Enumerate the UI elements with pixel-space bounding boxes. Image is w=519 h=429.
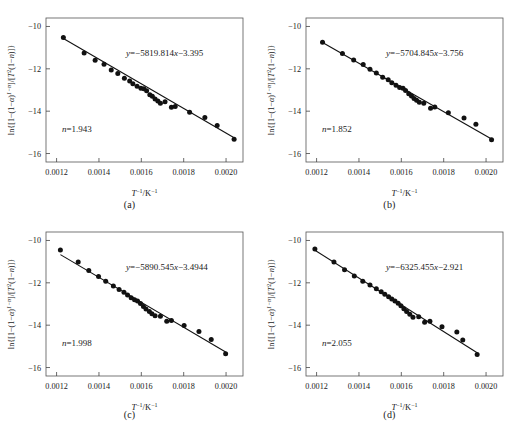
data-point xyxy=(196,329,201,334)
fit-equation-label: y=−6325.455x−2.921 xyxy=(385,262,463,272)
data-point xyxy=(187,110,192,115)
y-tick-label: −10 xyxy=(28,236,41,245)
x-tick-label: 0.0012 xyxy=(305,168,328,177)
data-point xyxy=(76,260,81,265)
x-tick-label: 0.0020 xyxy=(215,382,238,391)
y-tick-label: −16 xyxy=(28,364,41,373)
data-point xyxy=(389,80,394,85)
plot-b: 0.00120.00140.00160.00180.0020−10−12−14−… xyxy=(260,0,519,214)
data-point xyxy=(416,314,421,319)
data-point xyxy=(342,267,347,272)
y-axis-title: ln{[1−(1−α)1−n]/[T2(1−n)]} xyxy=(266,45,276,135)
panel-b: 0.00120.00140.00160.00180.0020−10−12−14−… xyxy=(260,0,519,214)
reaction-order-label: n=1.943 xyxy=(62,124,92,134)
data-point xyxy=(215,123,220,128)
x-tick-label: 0.0016 xyxy=(390,168,413,177)
data-point xyxy=(209,337,214,342)
y-axis-title: ln{[1−(1−α)1−n]/[T2(1−n)]} xyxy=(6,45,16,135)
y-tick-label: −16 xyxy=(288,364,301,373)
x-tick-label: 0.0012 xyxy=(305,382,328,391)
y-tick-label: −14 xyxy=(288,321,301,330)
data-point xyxy=(117,287,122,292)
data-point xyxy=(163,99,168,104)
y-tick-label: −12 xyxy=(28,279,41,288)
data-point xyxy=(169,318,174,323)
x-tick-label: 0.0016 xyxy=(130,168,153,177)
plot-c: 0.00120.00140.00160.00180.0020−10−12−14−… xyxy=(0,214,259,428)
data-point xyxy=(82,50,87,55)
x-tick-label: 0.0018 xyxy=(432,382,455,391)
y-axis-title-text: ln{[1−(1−α)1−n]/[T2(1−n)]} xyxy=(6,259,16,349)
x-tick-label: 0.0020 xyxy=(475,168,498,177)
fit-equation-label: y=−5704.845x−3.756 xyxy=(385,48,464,58)
panel-caption-b: (b) xyxy=(260,199,519,210)
data-point xyxy=(111,284,116,289)
fit-equation-label: y=−5819.814x−3.395 xyxy=(125,48,204,58)
y-axis-title-text: ln{[1−(1−α)1−n]/[T2(1−n)]} xyxy=(266,259,276,349)
data-point xyxy=(374,286,379,291)
reaction-order-label: n=1.852 xyxy=(322,124,352,134)
x-tick-label: 0.0014 xyxy=(348,168,371,177)
y-axis-title: ln{[1−(1−α)1−n]/[T2(1−n)]} xyxy=(266,259,276,349)
panel-caption-a: (a) xyxy=(0,199,259,210)
data-point xyxy=(232,137,237,142)
y-tick-label: −10 xyxy=(28,22,41,31)
x-tick-label: 0.0020 xyxy=(475,382,498,391)
data-point xyxy=(428,106,433,111)
plot-frame xyxy=(306,232,503,376)
data-point xyxy=(109,67,114,72)
y-axis-title-text: ln{[1−(1−α)1−n]/[T2(1−n)]} xyxy=(266,45,276,135)
data-point xyxy=(312,246,317,251)
data-point xyxy=(122,76,127,81)
data-point xyxy=(422,320,427,325)
data-point xyxy=(367,282,372,287)
x-tick-label: 0.0014 xyxy=(88,168,111,177)
data-point xyxy=(86,268,91,273)
fit-equation-label: y=−5890.545x−3.4944 xyxy=(125,262,208,272)
x-tick-label: 0.0020 xyxy=(215,168,238,177)
plot-a: 0.00120.00140.00160.00180.0020−10−12−14−… xyxy=(0,0,259,214)
data-point xyxy=(331,260,336,265)
data-point xyxy=(460,338,465,343)
data-point xyxy=(352,274,357,279)
data-point xyxy=(164,319,169,324)
panel-a: 0.00120.00140.00160.00180.0020−10−12−14−… xyxy=(0,0,259,214)
x-tick-label: 0.0018 xyxy=(432,168,455,177)
y-tick-label: −16 xyxy=(28,150,41,159)
y-tick-label: −10 xyxy=(288,22,301,31)
y-tick-label: −14 xyxy=(28,321,41,330)
x-tick-label: 0.0014 xyxy=(88,382,111,391)
data-point xyxy=(367,67,372,72)
data-point xyxy=(173,104,178,109)
x-tick-label: 0.0016 xyxy=(130,382,153,391)
data-point xyxy=(223,351,228,356)
data-point xyxy=(427,319,432,324)
x-tick-label: 0.0012 xyxy=(45,168,68,177)
four-panel-kinetics-figure: 0.00120.00140.00160.00180.0020−10−12−14−… xyxy=(0,0,519,429)
y-tick-label: −12 xyxy=(288,279,301,288)
panel-caption-c: (c) xyxy=(0,409,259,420)
y-tick-label: −16 xyxy=(288,150,301,159)
data-point xyxy=(96,274,101,279)
x-axis-title: T−1/K−1 xyxy=(131,188,157,198)
y-tick-label: −14 xyxy=(28,107,41,116)
data-point xyxy=(417,100,422,105)
data-point xyxy=(158,101,163,106)
data-point xyxy=(475,352,480,357)
y-tick-label: −12 xyxy=(288,65,301,74)
x-tick-label: 0.0018 xyxy=(172,382,195,391)
panel-c: 0.00120.00140.00160.00180.0020−10−12−14−… xyxy=(0,214,259,428)
x-axis-title: T−1/K−1 xyxy=(391,188,417,198)
data-point xyxy=(360,279,365,284)
panel-caption-d: (d) xyxy=(260,409,519,420)
y-tick-label: −10 xyxy=(288,236,301,245)
data-point xyxy=(202,115,207,120)
data-point xyxy=(410,315,415,320)
x-tick-label: 0.0014 xyxy=(348,382,371,391)
plot-d: 0.00120.00140.00160.00180.0020−10−12−14−… xyxy=(260,214,519,428)
data-point xyxy=(58,248,63,253)
data-point xyxy=(158,314,163,319)
y-tick-label: −14 xyxy=(288,107,301,116)
data-point xyxy=(182,323,187,328)
data-point xyxy=(446,110,451,115)
